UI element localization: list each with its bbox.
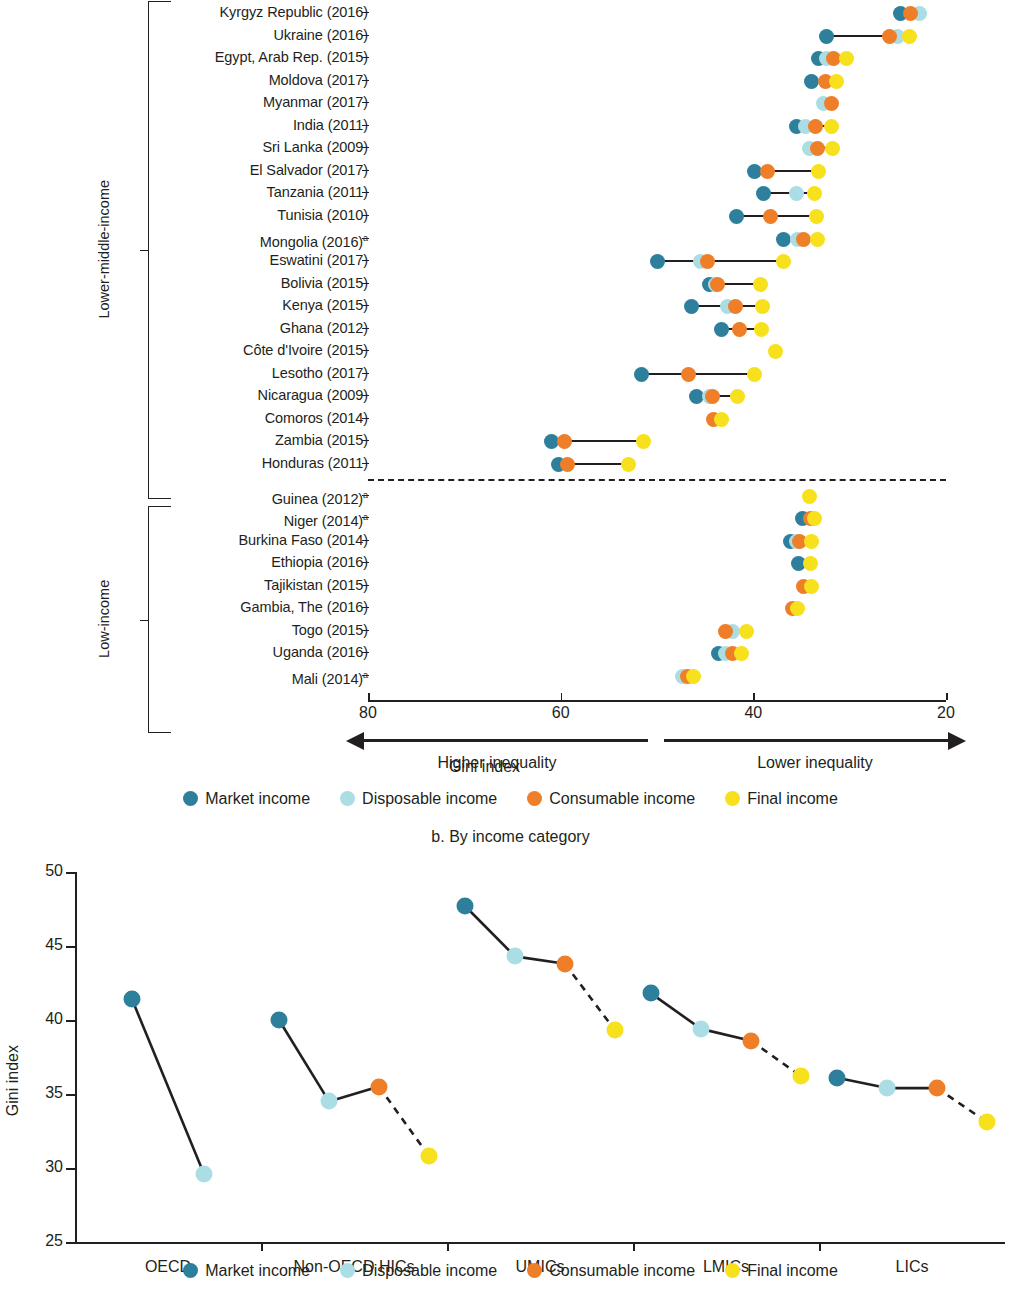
country-label: Ethiopia (2016) bbox=[271, 551, 368, 574]
legend-item-final: Final income bbox=[725, 1262, 838, 1280]
panel-a-axis-title: Gini index bbox=[0, 758, 1021, 776]
final-income-dot bbox=[754, 322, 769, 337]
row-tick bbox=[362, 215, 369, 216]
group-bracket-nub bbox=[140, 620, 149, 621]
country-label: Gambia, The (2016) bbox=[240, 596, 368, 619]
final-income-dot bbox=[739, 624, 754, 639]
disposable-income-point bbox=[693, 1020, 710, 1037]
panel-b-y-tick bbox=[66, 946, 75, 948]
country-label: Honduras (2011) bbox=[262, 452, 368, 475]
panel-a-x-axis bbox=[368, 700, 946, 702]
final-income-dot bbox=[902, 29, 917, 44]
consumable-income-dot bbox=[700, 254, 715, 269]
x-tick bbox=[753, 693, 755, 700]
row-tick bbox=[362, 585, 369, 586]
country-label: Tanzania (2011) bbox=[267, 181, 368, 204]
consumable-swatch-icon bbox=[527, 1263, 542, 1278]
row-tick bbox=[362, 328, 369, 329]
x-tick bbox=[946, 693, 948, 700]
market-income-dot bbox=[729, 209, 744, 224]
row-tick bbox=[362, 440, 369, 441]
legend-label-disposable: Disposable income bbox=[362, 1262, 497, 1279]
country-label: Côte d'Ivoire (2015) bbox=[243, 339, 368, 362]
disposable-income-point bbox=[879, 1080, 896, 1097]
disposable-income-dot bbox=[789, 186, 804, 201]
final-income-dot bbox=[825, 141, 840, 156]
panel-b-y-axis-label: Gini index bbox=[4, 1045, 22, 1116]
country-label: Burkina Faso (2014) bbox=[239, 529, 368, 552]
consumable-income-dot bbox=[560, 457, 575, 472]
country-label: Togo (2015) bbox=[292, 619, 368, 642]
final-income-point bbox=[979, 1114, 996, 1131]
disposable-swatch-icon bbox=[340, 791, 355, 806]
legend-item-consumable: Consumable income bbox=[527, 790, 695, 808]
final-swatch-icon bbox=[725, 1263, 740, 1278]
legend-item-final: Final income bbox=[725, 790, 838, 808]
consumable-income-point bbox=[929, 1080, 946, 1097]
final-income-dot bbox=[804, 579, 819, 594]
row-tick bbox=[362, 170, 369, 171]
disposable-income-point bbox=[196, 1165, 213, 1182]
x-tick-label: 20 bbox=[932, 704, 960, 722]
disposable-income-point bbox=[321, 1093, 338, 1110]
country-label: Comoros (2014) bbox=[265, 407, 368, 430]
row-tick bbox=[362, 260, 369, 261]
final-income-dot bbox=[829, 74, 844, 89]
x-tick-label: 40 bbox=[739, 704, 767, 722]
consumable-income-dot bbox=[732, 322, 747, 337]
row-tick bbox=[362, 630, 369, 631]
row-connector-line bbox=[658, 260, 783, 262]
disposable-income-point bbox=[507, 948, 524, 965]
row-tick bbox=[362, 12, 369, 13]
row-tick bbox=[362, 350, 369, 351]
final-income-dot bbox=[839, 51, 854, 66]
consumable-income-dot bbox=[681, 367, 696, 382]
panel-b-y-tick bbox=[66, 1168, 75, 1170]
row-tick bbox=[362, 238, 369, 239]
row-tick bbox=[362, 418, 369, 419]
consumable-income-point bbox=[371, 1078, 388, 1095]
consumable-swatch-icon bbox=[527, 791, 542, 806]
panel-b-by-income-category: b. By income category 253035404550OECDNo… bbox=[0, 828, 1021, 1296]
row-tick bbox=[362, 192, 369, 193]
market-income-dot bbox=[650, 254, 665, 269]
row-tick bbox=[362, 395, 369, 396]
final-swatch-icon bbox=[725, 791, 740, 806]
market-income-dot bbox=[804, 74, 819, 89]
final-income-dot bbox=[807, 186, 822, 201]
final-income-dot bbox=[776, 254, 791, 269]
consumable-income-dot bbox=[903, 6, 918, 21]
panel-a-by-country: Kyrgyz Republic (2016)Ukraine (2016)Egyp… bbox=[0, 0, 1021, 825]
group-divider-dashed-line bbox=[368, 479, 946, 481]
panel-b-y-tick-label: 40 bbox=[3, 1010, 63, 1028]
consumable-income-dot bbox=[710, 277, 725, 292]
panel-b-y-tick bbox=[66, 872, 75, 874]
panel-b-plot-area: 253035404550OECDNon-OECD HICsUMICsLMICsL… bbox=[75, 872, 1005, 1244]
final-income-dot bbox=[768, 344, 783, 359]
row-tick bbox=[362, 652, 369, 653]
market-income-point bbox=[124, 991, 141, 1008]
legend-label-final: Final income bbox=[747, 790, 838, 807]
market-income-dot bbox=[776, 232, 791, 247]
legend-label-consumable: Consumable income bbox=[549, 790, 695, 807]
country-label: Kenya (2015) bbox=[282, 294, 368, 317]
disposable-swatch-icon bbox=[340, 1263, 355, 1278]
row-tick bbox=[362, 102, 369, 103]
final-income-dot bbox=[636, 434, 651, 449]
legend-label-consumable: Consumable income bbox=[549, 1262, 695, 1279]
market-income-dot bbox=[684, 299, 699, 314]
country-label: Zambia (2015) bbox=[275, 429, 368, 452]
final-income-dot bbox=[714, 412, 729, 427]
final-income-dot bbox=[811, 164, 826, 179]
consumable-income-dot bbox=[796, 232, 811, 247]
lower-inequality-arrow: Lower inequality bbox=[664, 730, 966, 752]
panel-b-y-tick bbox=[66, 1242, 75, 1244]
market-income-dot bbox=[714, 322, 729, 337]
consumable-income-point bbox=[743, 1032, 760, 1049]
panel-b-y-tick-label: 25 bbox=[3, 1232, 63, 1250]
row-tick bbox=[362, 463, 369, 464]
higher-inequality-arrow: Higher inequality bbox=[346, 730, 648, 752]
market-income-dot bbox=[634, 367, 649, 382]
legend-item-disposable: Disposable income bbox=[340, 1262, 497, 1280]
country-label: Tunisia (2010) bbox=[277, 204, 368, 227]
